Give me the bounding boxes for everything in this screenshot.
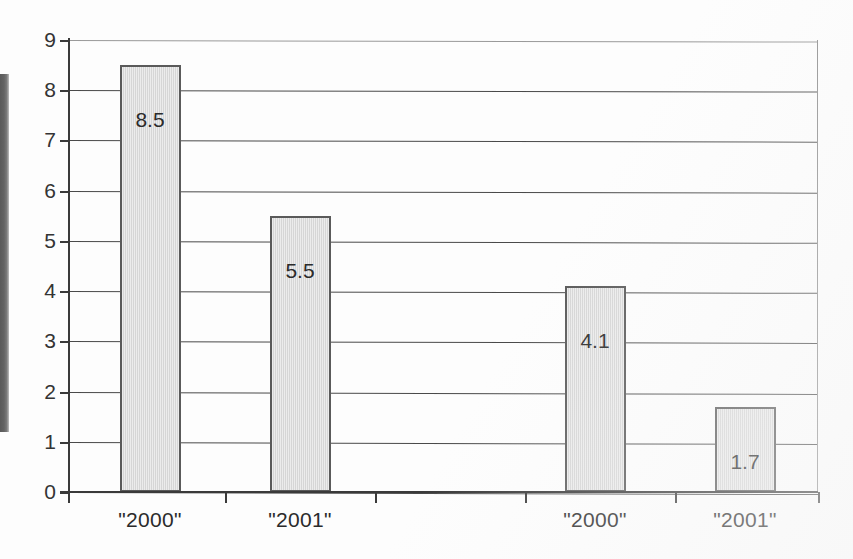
bar-value-label: 8.5 (120, 109, 181, 130)
y-axis-tick-label: 6 (20, 180, 56, 201)
y-axis-line (68, 38, 70, 494)
y-axis-tick-label: 7 (20, 129, 56, 150)
x-axis-category-label: "2000" (90, 508, 210, 531)
x-axis-line (60, 491, 818, 493)
x-axis-tick-mark (818, 492, 820, 503)
bar-value-label: 1.7 (715, 451, 776, 472)
bar-value-label: 4.1 (565, 330, 626, 351)
x-axis-tick-mark (375, 492, 377, 503)
bar (270, 216, 331, 492)
y-axis-tick-label: 3 (20, 330, 56, 351)
plot-area: 8.55.54.11.7 (68, 40, 818, 492)
y-axis-tick-label: 9 (20, 29, 56, 50)
y-axis-tick-label: 4 (20, 280, 56, 301)
y-axis-tick-label: 0 (20, 481, 56, 502)
scan-edge-artifact (0, 74, 9, 432)
y-axis-tick-label: 2 (20, 381, 56, 402)
plot-right-border (817, 40, 818, 492)
chart-screenshot: 9876543210 8.55.54.11.7 "2000""2001""200… (0, 0, 853, 559)
bar (565, 286, 626, 492)
x-axis-tick-mark (675, 492, 677, 503)
bar-value-label: 5.5 (270, 260, 331, 281)
gridline (68, 40, 818, 43)
x-axis-category-label: "2001" (685, 508, 805, 531)
x-axis-tick-mark (525, 492, 527, 503)
x-axis-tick-mark (225, 492, 227, 503)
x-axis-category-label: "2001" (240, 508, 360, 531)
y-axis-tick-label: 8 (20, 79, 56, 100)
x-axis-tick-mark (68, 492, 70, 503)
y-axis-tick-label: 5 (20, 230, 56, 251)
y-axis-tick-label: 1 (20, 431, 56, 452)
x-axis-category-label: "2000" (535, 508, 655, 531)
